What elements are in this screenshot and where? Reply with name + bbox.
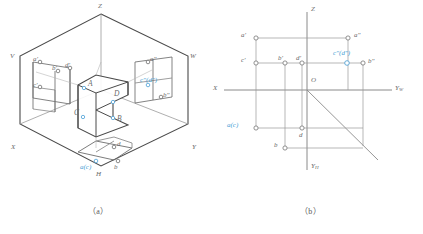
ptlabel-ac-h: a(c)	[227, 121, 238, 129]
h-plane-points	[94, 145, 120, 163]
figure-root: V W H Z X Y A B C D a' b' d' c' a" c"(d"…	[0, 0, 423, 234]
label-b-prime: b'	[52, 64, 57, 72]
ptlabel-d-prime: d'	[296, 54, 301, 62]
marker-C	[81, 115, 84, 118]
axis-Z-label-b: Z	[311, 5, 315, 13]
axis-Yh-sub: H	[315, 165, 319, 170]
ptlabel-c-prime: c'	[241, 56, 246, 64]
marker-a-prime	[38, 60, 42, 64]
caption-b: （b）	[300, 205, 321, 216]
label-a-prime: a'	[33, 55, 38, 63]
ptlabel-b-dprime: b"	[368, 57, 374, 65]
marker-D	[111, 100, 114, 103]
label-H: H	[96, 170, 101, 178]
vertex-label-B: B	[117, 114, 122, 123]
marker-c-prime	[38, 85, 42, 89]
marker-d-h-b	[300, 126, 304, 130]
panel-a-drawing	[0, 0, 212, 234]
axis-Yw-sub: W	[399, 87, 403, 92]
axis-Yw-label: YW	[395, 84, 403, 92]
ptlabel-a-prime: a'	[241, 31, 246, 39]
ptlabel-b-prime: b'	[278, 54, 283, 62]
marker-b-h-b	[283, 146, 287, 150]
marker-cd-dprime-b	[345, 61, 350, 66]
panel-a-pictorial: V W H Z X Y A B C D a' b' d' c' a" c"(d"…	[0, 0, 212, 234]
axis-X-label-a: X	[11, 143, 15, 151]
ptlabel-a-dprime: a"	[354, 31, 360, 39]
label-d-prime: d'	[65, 61, 70, 69]
label-W: W	[190, 52, 196, 60]
label-ac-h: a(c)	[80, 163, 91, 171]
axis-Y-label-a: Y	[192, 143, 196, 151]
label-cd-dprime: c"(d")	[140, 76, 157, 84]
axis-Yh-label: YH	[311, 162, 319, 170]
marker-B	[111, 116, 114, 119]
vertex-label-C: C	[74, 108, 79, 117]
marker-d-h	[112, 145, 116, 149]
label-c-prime: c'	[33, 81, 38, 89]
axis-Z-label-a: Z	[98, 2, 102, 10]
marker-c-prime-b	[254, 61, 258, 65]
marker-b-prime-b	[283, 61, 287, 65]
miter-45-line	[307, 90, 378, 160]
vertex-label-A: A	[88, 79, 93, 88]
marker-ac-h-b	[254, 126, 258, 130]
ptlabel-b-h: b	[274, 141, 278, 149]
vertex-label-D: D	[114, 89, 119, 98]
h-plane-projection-shape	[78, 137, 132, 160]
label-d-h: d	[117, 140, 121, 148]
marker-A	[82, 86, 85, 89]
marker-a-prime-b	[254, 36, 258, 40]
axis-X-label-b: X	[213, 84, 217, 92]
caption-a: （a）	[88, 205, 108, 216]
label-a-dprime: a"	[150, 55, 156, 63]
ptlabel-d-h: d	[299, 131, 303, 139]
marker-ac-h	[94, 159, 98, 163]
label-V: V	[10, 52, 14, 60]
marker-a-dprime-b	[346, 36, 350, 40]
origin-label: O	[311, 76, 316, 84]
ptlabel-cd-dprime: c"(d")	[333, 49, 350, 57]
label-b-dprime: b"	[163, 91, 169, 99]
panel-b-orthographic: Z X YW YH O a' a" c' b' d' c"(d") b" a(c…	[212, 0, 423, 234]
marker-b-dprime-b	[361, 61, 365, 65]
label-b-h: b	[114, 163, 118, 171]
